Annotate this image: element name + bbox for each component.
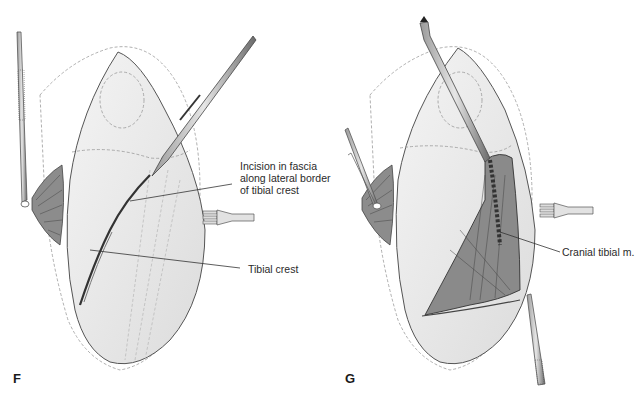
surgical-illustration: Incision in fascia along lateral border … — [0, 0, 640, 401]
annotation-cranial-tibial: Cranial tibial m. — [562, 246, 634, 258]
panel-letter-g: G — [345, 371, 355, 386]
panel-f-drawing — [0, 0, 640, 401]
scissors-icon — [152, 36, 256, 176]
panel-f-limb — [32, 47, 205, 370]
forceps-icon — [527, 294, 545, 385]
panel-letter-f: F — [13, 371, 21, 386]
forceps-icon — [17, 32, 29, 207]
annotation-tibial-crest: Tibial crest — [248, 263, 298, 275]
retractor-icon — [203, 210, 254, 225]
retractor-icon — [540, 203, 593, 218]
annotation-incision: Incision in fascia along lateral border … — [240, 160, 330, 196]
panel-g-limb — [362, 47, 535, 370]
